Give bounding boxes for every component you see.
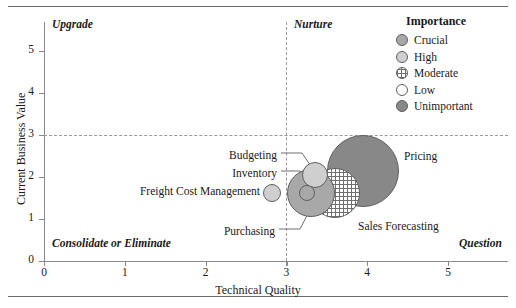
y-tick-label-0: 0 <box>20 253 34 265</box>
x-axis-title: Technical Quality <box>0 283 516 298</box>
label-sales-forecasting: Sales Forecasting <box>358 220 439 232</box>
legend-item-moderate[interactable]: Moderate <box>396 65 473 82</box>
legend-label: Crucial <box>414 34 448 46</box>
x-tick-label-1: 1 <box>115 266 135 278</box>
legend-item-crucial[interactable]: Crucial <box>396 32 473 49</box>
legend-label: Moderate <box>414 67 458 79</box>
legend-item-unimportant[interactable]: Unimportant <box>396 98 473 115</box>
legend-swatch-moderate-icon <box>396 67 408 79</box>
x-tick-label-3: 3 <box>276 266 296 278</box>
x-tick-label-4: 4 <box>357 266 377 278</box>
bubble-budgeting <box>302 162 328 188</box>
bubble-chart: 012345 012345 UpgradeNurtureConsolidate … <box>0 0 516 308</box>
y-tick-label-5: 5 <box>20 43 34 55</box>
y-tick-label-1: 1 <box>20 211 34 223</box>
horizontal-reference-line <box>44 135 508 136</box>
x-tick-label-0: 0 <box>34 266 54 278</box>
legend-item-high[interactable]: High <box>396 49 473 66</box>
y-tick-4 <box>39 93 44 94</box>
quadrant-label-upper-left: Upgrade <box>52 18 93 30</box>
top-rule <box>8 6 508 7</box>
legend-swatch-crucial-icon <box>396 34 408 46</box>
legend-item-low[interactable]: Low <box>396 82 473 99</box>
y-tick-5 <box>39 51 44 52</box>
quadrant-label-lower-right: Question <box>459 237 502 249</box>
vertical-reference-line <box>286 22 287 261</box>
x-axis-line <box>44 261 508 262</box>
quadrant-label-lower-left: Consolidate or Eliminate <box>52 237 171 249</box>
legend-swatch-low-icon <box>396 84 408 96</box>
legend-label: Unimportant <box>414 100 473 112</box>
label-freight-cost-management: Freight Cost Management <box>0 185 260 197</box>
legend-label: High <box>414 51 437 63</box>
label-budgeting: Budgeting <box>0 149 277 161</box>
y-tick-0 <box>39 261 44 262</box>
y-tick-1 <box>39 219 44 220</box>
quadrant-label-upper-right: Nurture <box>294 18 332 30</box>
y-axis-title: Current Business Value <box>14 93 29 205</box>
label-pricing: Pricing <box>404 150 437 162</box>
label-inventory: Inventory <box>0 167 277 179</box>
legend: Importance CrucialHighModerateLowUnimpor… <box>396 14 473 115</box>
legend-swatch-unimportant-icon <box>396 100 408 112</box>
legend-swatch-high-icon <box>396 51 408 63</box>
x-tick-label-5: 5 <box>438 266 458 278</box>
bubble-freight-cost-management <box>263 184 281 202</box>
bubble-inventory <box>299 185 315 201</box>
legend-entries: CrucialHighModerateLowUnimportant <box>396 32 473 115</box>
label-purchasing: Purchasing <box>0 225 275 237</box>
legend-title: Importance <box>406 14 473 29</box>
x-tick-label-2: 2 <box>196 266 216 278</box>
legend-label: Low <box>414 84 435 96</box>
